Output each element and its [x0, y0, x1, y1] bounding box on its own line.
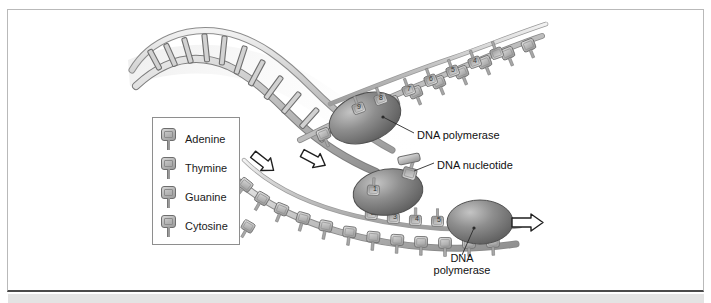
svg-text:4: 4: [473, 57, 477, 64]
svg-text:9: 9: [357, 103, 361, 110]
thymine-nucleotide-icon: [161, 157, 176, 179]
callout-dna-nucleotide: DNA nucleotide: [437, 159, 513, 171]
legend-item-adenine: Adenine: [161, 125, 225, 153]
svg-text:1: 1: [373, 185, 377, 192]
dna-polymerase-bottom: [447, 200, 513, 244]
svg-text:5: 5: [437, 216, 441, 223]
legend-item-guanine: Guanine: [161, 183, 227, 211]
cytosine-nucleotide-icon: [161, 215, 176, 237]
svg-text:6: 6: [429, 75, 433, 82]
callout-dna-polymerase-bottom-line1: DNA: [427, 252, 497, 264]
callout-dna-polymerase-bottom: DNA polymerase: [427, 252, 497, 276]
callout-dna-polymerase-top: DNA polymerase: [417, 129, 500, 141]
svg-text:7: 7: [407, 85, 411, 92]
dna-replication-figure: 7 6 5 4 9 8: [0, 0, 711, 303]
legend-label-adenine: Adenine: [185, 134, 225, 145]
legend-item-thymine: Thymine: [161, 154, 227, 182]
svg-text:5: 5: [451, 66, 455, 73]
legend-label-cytosine: Cytosine: [185, 221, 228, 232]
dna-replication-illustration: 7 6 5 4 9 8: [0, 0, 711, 303]
direction-arrow-top: [298, 146, 328, 172]
direction-arrow-middle: [248, 148, 278, 177]
nucleotide-legend: Adenine Thymine Guanine Cytosine: [152, 117, 240, 245]
guanine-nucleotide-icon: [161, 186, 176, 208]
svg-text:8: 8: [379, 94, 383, 101]
callout-dna-polymerase-bottom-line2: polymerase: [427, 264, 497, 276]
adenine-nucleotide-icon: [161, 128, 176, 150]
legend-item-cytosine: Cytosine: [161, 212, 228, 240]
svg-text:4: 4: [415, 215, 419, 222]
legend-label-thymine: Thymine: [185, 163, 227, 174]
legend-label-guanine: Guanine: [185, 192, 227, 203]
